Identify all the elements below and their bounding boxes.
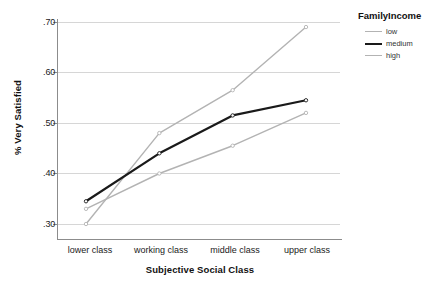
legend-title: FamilyIncome [358,10,426,21]
data-point-low-working-class [158,172,161,175]
legend-swatch-high-icon [365,55,382,56]
legend-item-medium[interactable]: medium [358,38,426,49]
x-axis-title: Subjective Social Class [0,264,400,275]
series-low [84,111,307,210]
series-medium [84,99,307,203]
legend-label-high: high [386,52,400,60]
y-axis-title: % Very Satisfied [12,53,23,183]
chart-container: .70 .60 .50 .40 .30 lower class working … [0,0,426,285]
legend: FamilyIncome low medium high [358,10,426,62]
data-point-low-upper-class [304,111,307,114]
legend-item-high[interactable]: high [358,50,426,61]
data-point-high-upper-class [304,25,307,28]
data-point-medium-upper-class [304,99,307,102]
legend-swatch-low-icon [365,31,382,32]
data-point-high-middle-class [231,88,234,91]
data-point-medium-middle-class [231,114,234,117]
data-point-medium-lower-class [84,200,87,203]
data-point-high-working-class [158,131,161,134]
legend-swatch-medium-icon [365,43,382,45]
data-point-low-lower-class [84,207,87,210]
data-point-low-middle-class [231,144,234,147]
data-point-medium-working-class [158,152,161,155]
series-high [84,25,307,225]
legend-item-low[interactable]: low [358,26,426,37]
legend-label-medium: medium [386,40,413,48]
legend-label-low: low [386,28,397,36]
data-point-high-lower-class [84,222,87,225]
x-tick-label-upper-class: upper class [260,245,354,255]
